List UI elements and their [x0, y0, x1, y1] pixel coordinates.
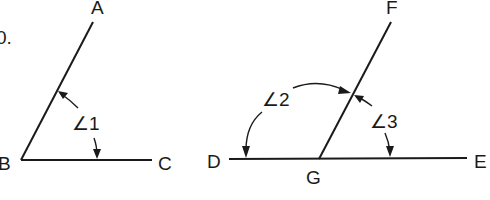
point-f-label: F [386, 0, 398, 18]
angle-diagram: 0. ∠1 A B C ∠2 ∠3 D E F G [0, 0, 490, 200]
point-c-label: C [158, 153, 172, 174]
angle-2-arrowhead-right-icon [338, 86, 351, 94]
point-g-label: G [306, 167, 321, 188]
ray-ba [21, 22, 93, 160]
angle-3-arrowhead-lower-icon [386, 146, 394, 157]
angle-3-label: ∠3 [370, 111, 398, 132]
angle-2-arc-left [246, 112, 262, 150]
point-a-label: A [91, 0, 104, 18]
ray-gf [319, 22, 391, 159]
point-b-label: B [0, 153, 11, 174]
angle-abc: ∠1 A B C [0, 0, 172, 174]
angles-dgf-fge: ∠2 ∠3 D E F G [207, 0, 487, 188]
angle-2-arrowhead-left-icon [242, 146, 250, 158]
line-de [229, 158, 467, 159]
angle-1-arrowhead-lower-icon [93, 149, 101, 159]
angle-1-label: ∠1 [72, 113, 100, 134]
fragment-label: 0. [0, 27, 12, 48]
angle-2-label: ∠2 [262, 89, 290, 110]
angle-2-arc-right [293, 83, 344, 90]
point-e-label: E [474, 151, 487, 172]
point-d-label: D [207, 151, 221, 172]
